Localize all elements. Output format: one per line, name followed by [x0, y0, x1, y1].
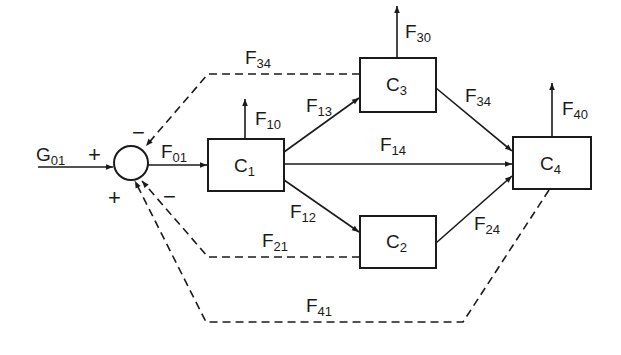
- flow-f24-label: F24: [474, 213, 500, 237]
- flow-f12-label: F12: [290, 201, 316, 225]
- feedback-f41-line: [135, 181, 549, 322]
- flow-f40-label: F40: [562, 98, 588, 122]
- sign-bottom-minus: −: [163, 184, 176, 209]
- input-g01-label: G01: [36, 144, 65, 168]
- summing-junction: [114, 146, 148, 180]
- flow-f30-label: F30: [405, 21, 431, 45]
- flow-f34-label: F34: [465, 85, 491, 109]
- feedback-f41-label: F41: [306, 295, 332, 319]
- sign-input-plus: +: [88, 142, 101, 167]
- sign-bottom-plus: +: [108, 185, 121, 210]
- flow-f01-label: F01: [161, 141, 187, 165]
- flow-f14-label: F14: [380, 134, 406, 158]
- flow-diagram: G01 + − + − F01 F10 F13 F14 F12 F30 F34 …: [0, 0, 621, 355]
- feedback-f21-label: F21: [262, 230, 288, 254]
- flow-f13-label: F13: [306, 95, 332, 119]
- flow-f10-label: F10: [255, 108, 281, 132]
- feedback-f34-label: F34: [245, 47, 271, 71]
- sign-top-minus: −: [132, 120, 145, 145]
